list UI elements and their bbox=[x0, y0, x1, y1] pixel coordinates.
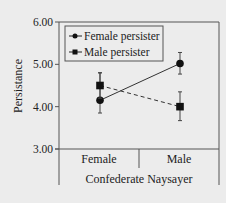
data-point-circle bbox=[176, 60, 184, 68]
x-category-label-female: Female bbox=[81, 152, 116, 166]
data-point-square bbox=[176, 103, 184, 111]
legend-marker-circle bbox=[73, 34, 78, 39]
series-line-female-persister bbox=[100, 63, 180, 100]
legend-label-female: Female persister bbox=[84, 30, 160, 43]
y-tick-label: 6.00 bbox=[33, 16, 53, 28]
y-tick-label: 4.00 bbox=[33, 101, 53, 113]
chart: 3.004.005.006.00 Female Male Confederate… bbox=[0, 0, 236, 203]
x-category-label-male: Male bbox=[167, 152, 192, 166]
y-tick-label: 5.00 bbox=[33, 58, 53, 70]
data-point-square bbox=[96, 82, 104, 90]
legend-marker-square bbox=[73, 50, 78, 55]
legend: Female persister Male persister bbox=[65, 26, 163, 61]
x-axis-title: Confederate Naysayer bbox=[86, 172, 193, 186]
y-axis-title: Persistance bbox=[11, 59, 25, 113]
series-line-male-persister bbox=[100, 86, 180, 107]
legend-label-male: Male persister bbox=[84, 46, 150, 59]
y-tick-label: 3.00 bbox=[33, 143, 53, 155]
